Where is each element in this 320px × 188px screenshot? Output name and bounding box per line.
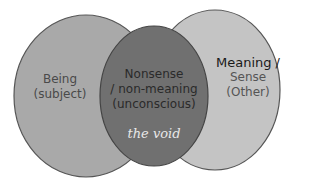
left-label-line2: (subject) xyxy=(25,87,95,102)
right-label-line2: Sense xyxy=(210,70,286,85)
right-label: Meaning / Sense (Other) xyxy=(210,55,286,100)
center-label-line2: / non-meaning xyxy=(104,82,204,97)
left-label: Being (subject) xyxy=(25,72,95,102)
left-label-line1: Being xyxy=(25,72,95,87)
center-label-line3: (unconscious) xyxy=(104,97,204,112)
void-label: the void xyxy=(114,126,194,141)
center-label-line1: Nonsense xyxy=(104,67,204,82)
center-label: Nonsense / non-meaning (unconscious) xyxy=(104,67,204,112)
right-label-line1: Meaning / xyxy=(210,55,286,70)
right-label-line3: (Other) xyxy=(210,85,286,100)
